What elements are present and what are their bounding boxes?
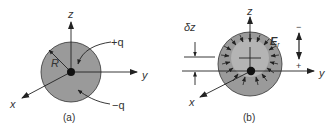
caption-a: (a) <box>63 112 75 123</box>
caption-b: (b) <box>243 112 255 123</box>
plus-q-label: +q <box>111 36 124 48</box>
x-label-b: x <box>188 96 195 108</box>
panel-b: δz − + z y x Er (b) <box>182 5 326 123</box>
field-subscript: r <box>277 41 280 48</box>
y-label-a: y <box>141 69 149 81</box>
dz-label: δz <box>184 21 196 33</box>
field-label: Er <box>270 35 280 48</box>
panel-a: z y x R +q −q (a) <box>9 8 149 123</box>
center-charge-a <box>67 68 75 76</box>
radius-label: R <box>51 57 59 69</box>
minus-q-label: −q <box>112 99 125 111</box>
plus-sign: + <box>296 61 301 71</box>
displaced-charge-b <box>247 67 255 75</box>
z-label-a: z <box>67 8 74 20</box>
figure-canvas: z y x R +q −q (a) <box>0 0 335 130</box>
y-label-b: y <box>318 67 326 79</box>
minus-sign: − <box>296 22 301 32</box>
x-label-a: x <box>9 98 16 110</box>
z-label-b: z <box>246 5 253 17</box>
